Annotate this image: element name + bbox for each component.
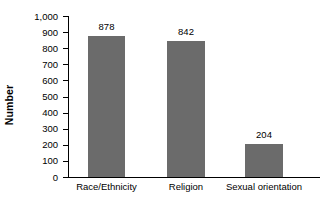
y-tick-label: 700: [0, 60, 58, 70]
y-tick-mark: [63, 48, 68, 49]
bar: [245, 144, 283, 177]
y-tick-label: 600: [0, 76, 58, 86]
y-tick-label: 200: [0, 140, 58, 150]
x-axis-line: [68, 177, 320, 178]
y-tick-label: 100: [0, 156, 58, 166]
bar-value-label: 842: [156, 27, 216, 37]
y-tick-mark: [63, 97, 68, 98]
bar-value-label: 878: [77, 22, 137, 32]
y-axis-line: [68, 16, 69, 178]
x-axis-category-label: Race/Ethnicity: [59, 182, 155, 192]
y-tick-mark: [63, 177, 68, 178]
y-tick-label: 300: [0, 124, 58, 134]
bar: [88, 36, 125, 177]
y-tick-mark: [63, 145, 68, 146]
bar: [167, 41, 205, 177]
bar-chart: Number 01002003004005006007008009001,000…: [0, 0, 326, 210]
x-axis-category-label: Sexual orientation: [212, 182, 316, 192]
y-tick-label: 400: [0, 108, 58, 118]
y-tick-label: 900: [0, 28, 58, 38]
y-tick-mark: [63, 80, 68, 81]
y-tick-mark: [63, 161, 68, 162]
bar-value-label: 204: [234, 130, 294, 140]
y-tick-mark: [63, 16, 68, 17]
y-tick-label: 1,000: [0, 12, 58, 22]
y-tick-mark: [63, 32, 68, 33]
y-tick-label: 0: [0, 173, 58, 183]
y-tick-mark: [63, 64, 68, 65]
y-tick-mark: [63, 113, 68, 114]
y-tick-label: 800: [0, 44, 58, 54]
y-tick-mark: [63, 129, 68, 130]
y-tick-label: 500: [0, 92, 58, 102]
